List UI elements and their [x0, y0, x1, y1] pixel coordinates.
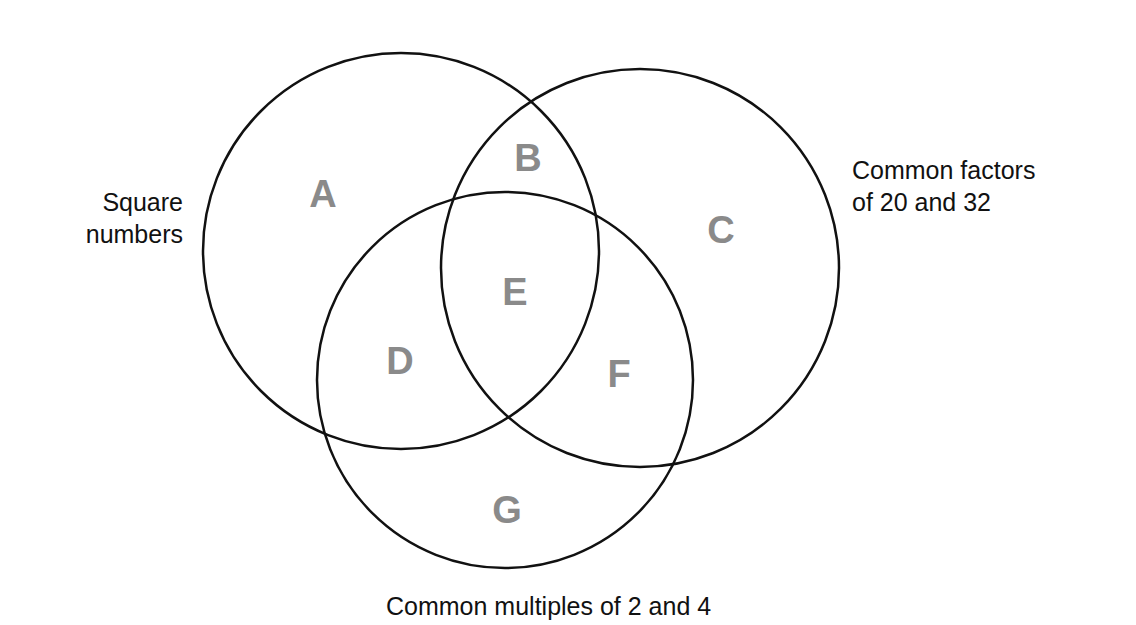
region-G: G [482, 490, 532, 530]
venn-diagram [0, 0, 1136, 625]
label-common-factors: Common factors of 20 and 32 [852, 154, 1035, 218]
label-square-numbers: Square numbers [60, 186, 183, 250]
label-common-multiples: Common multiples of 2 and 4 [386, 590, 711, 622]
region-A: A [298, 174, 348, 214]
region-B: B [503, 138, 553, 178]
region-F: F [594, 354, 644, 394]
region-D: D [375, 341, 425, 381]
circle-square-numbers [203, 53, 599, 449]
label-line-1: Square [60, 186, 183, 218]
circle-common-factors [441, 69, 839, 467]
region-C: C [696, 210, 746, 250]
label-line-2: of 20 and 32 [852, 186, 1035, 218]
label-line-1: Common factors [852, 154, 1035, 186]
label-line-2: numbers [60, 218, 183, 250]
region-E: E [490, 272, 540, 312]
